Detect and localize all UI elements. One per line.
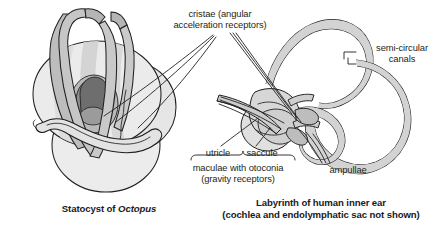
leader-lines-semicircular	[344, 52, 356, 64]
label-maculae-otoconia: maculae with otoconia (gravity receptors…	[176, 162, 300, 185]
caption-left-prefix: Statocyst of	[62, 203, 118, 214]
caption-right-line2: (cochlea and endolymphatic sac not shown…	[222, 209, 419, 220]
caption-human-labyrinth: Labyrinth of human inner ear(cochlea and…	[196, 197, 446, 220]
figure-container: .ol { fill:none; stroke:#231f20; stroke-…	[0, 0, 446, 234]
caption-right-line1: Labyrinth of human inner ear	[256, 197, 386, 208]
label-saccule: saccule	[238, 147, 286, 158]
label-semicircular-canals: semi-circular canals	[358, 42, 446, 65]
label-utricle: utricle	[196, 147, 240, 158]
caption-octopus-statocyst: Statocyst of Octopus	[6, 203, 212, 215]
caption-left-italic: Octopus	[118, 203, 156, 214]
label-ampullae: ampullae	[318, 164, 378, 175]
label-cristae: cristae (angular acceleration receptors)	[130, 8, 310, 31]
octopus-statocyst-group	[33, 9, 176, 192]
